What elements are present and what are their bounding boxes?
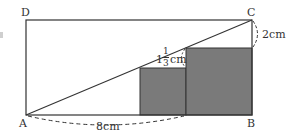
vertex-label-d: D: [21, 7, 30, 18]
fraction-denominator: 3: [163, 59, 169, 68]
fraction-numerator: 1: [163, 47, 169, 56]
vertex-label-a: A: [19, 118, 27, 129]
measurement-2cm: 2cm: [262, 29, 286, 40]
measurement-step-fraction: 1 1 3 cm: [156, 50, 186, 72]
vertex-label-b: B: [247, 118, 255, 129]
fraction-unit: cm: [170, 54, 187, 65]
dimension-arc-2cm: [253, 21, 258, 47]
measurement-8cm: 8cm: [96, 121, 120, 132]
vertex-label-c: C: [247, 7, 255, 18]
fraction-whole: 1: [156, 54, 163, 65]
small-square: [140, 68, 186, 115]
large-square: [186, 48, 252, 115]
cropped-edge-mark: [0, 32, 3, 38]
geometry-diagram: [0, 0, 295, 136]
